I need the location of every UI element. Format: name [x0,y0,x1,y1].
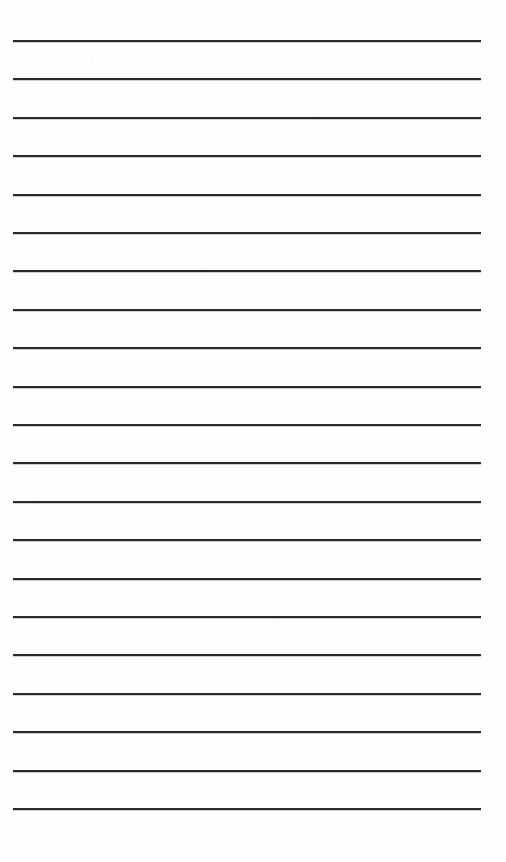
rule-line [13,424,481,426]
rule-line [13,232,481,234]
rule-line [13,654,481,656]
rule-line [13,616,481,618]
lined-paper-page [0,0,506,862]
rule-line [13,539,481,541]
rule-line [13,808,481,810]
rule-line [13,462,481,464]
rule-line [13,770,481,772]
rule-line [13,155,481,157]
rule-line [13,40,481,42]
rule-line [13,78,481,80]
ruled-lines-container [0,0,506,862]
rule-line [13,347,481,349]
rule-line [13,194,481,196]
rule-line [13,309,481,311]
rule-line [13,386,481,388]
rule-line [13,731,481,733]
rule-line [13,117,481,119]
rule-line [13,270,481,272]
rule-line [13,578,481,580]
rule-line [13,693,481,695]
rule-line [13,501,481,503]
